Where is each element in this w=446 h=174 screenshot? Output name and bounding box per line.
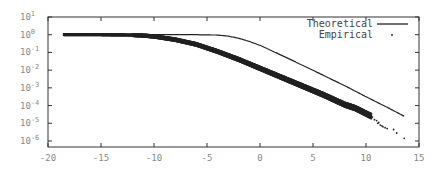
y-tick-label: 10-3: [20, 81, 39, 93]
legend: Theoretical Empirical: [307, 18, 408, 40]
y-tick-label: 10-4: [20, 99, 39, 111]
x-tick-label: 0: [257, 153, 262, 163]
chart: -20-15-10-5051015 10110010-110-210-310-4…: [0, 0, 446, 174]
y-tick-label: 100: [20, 28, 35, 40]
x-tick-label: -10: [146, 153, 162, 163]
y-tick-label: 10-6: [20, 134, 39, 146]
x-tick-label: 10: [361, 153, 372, 163]
x-tick-label: 5: [310, 153, 315, 163]
y-tick-label: 10-1: [20, 45, 39, 57]
y-tick-label: 101: [20, 10, 35, 22]
legend-label-theoretical: Theoretical: [307, 18, 373, 29]
x-tick-label: -20: [40, 153, 56, 163]
y-tick-label: 10-5: [20, 116, 39, 128]
y-tick-label: 10-2: [20, 63, 39, 75]
series-layer: [63, 33, 405, 139]
empirical-points: [63, 33, 405, 139]
legend-dot-marker: [391, 34, 393, 36]
theoretical-line: [64, 35, 404, 117]
x-tick-label: -15: [93, 153, 109, 163]
x-tick-label: -5: [202, 153, 213, 163]
x-tick-label: 15: [414, 153, 425, 163]
legend-label-empirical: Empirical: [319, 29, 373, 40]
